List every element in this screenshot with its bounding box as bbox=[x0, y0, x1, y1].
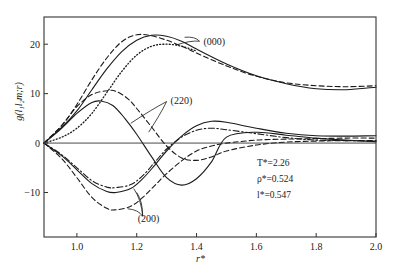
annotation-000: (000) bbox=[204, 36, 226, 48]
x-tick-label: 1.0 bbox=[71, 241, 84, 252]
y-tick-label: 10 bbox=[30, 88, 40, 99]
x-tick-label: 1.4 bbox=[190, 241, 203, 252]
annotation-220: (220) bbox=[171, 95, 193, 107]
series-000-solid bbox=[44, 35, 376, 143]
x-axis-label: r* bbox=[196, 253, 205, 264]
series-200-dashed bbox=[44, 138, 376, 210]
y-axis-label: g(l₁l₂m;r) bbox=[13, 62, 24, 142]
param-density: ρ*=0.524 bbox=[257, 171, 293, 187]
plot-frame bbox=[44, 17, 376, 237]
annotation-layer: (000)(220)(200) bbox=[128, 36, 225, 224]
series-220-dashed bbox=[44, 90, 376, 160]
x-tick-label: 1.8 bbox=[310, 241, 323, 252]
parameter-block: T*=2.26 ρ*=0.524 l*=0.547 bbox=[257, 155, 293, 203]
y-tick-label: −10 bbox=[24, 187, 40, 198]
y-tick-label: 0 bbox=[35, 138, 40, 149]
param-temperature: T*=2.26 bbox=[257, 155, 293, 171]
y-tick-label: 20 bbox=[30, 39, 40, 50]
series-200-dashdot bbox=[44, 128, 376, 188]
annotation-200: (200) bbox=[138, 213, 160, 225]
param-elongation: l*=0.547 bbox=[257, 187, 293, 203]
series-layer bbox=[44, 34, 376, 210]
x-tick-label: 1.2 bbox=[130, 241, 143, 252]
x-tick-label: 2.0 bbox=[370, 241, 383, 252]
series-000-dashed bbox=[44, 34, 376, 143]
chart: 1.01.21.41.61.82.020100−10 (000)(220)(20… bbox=[0, 0, 399, 274]
x-tick-label: 1.6 bbox=[250, 241, 263, 252]
